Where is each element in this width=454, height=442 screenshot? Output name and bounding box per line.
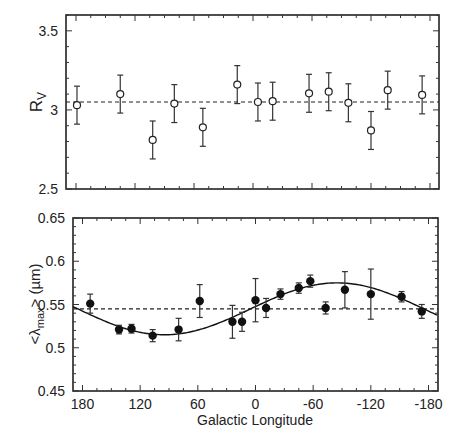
y-tick-label: 0.45 — [38, 383, 65, 399]
x-tick-label: 180 — [71, 396, 95, 412]
y-tick-label: 0.5 — [46, 340, 66, 356]
open-marker — [149, 136, 156, 143]
data-point — [228, 305, 236, 338]
data-point — [345, 84, 352, 122]
y-tick-label: 0.65 — [38, 210, 65, 226]
filled-marker — [148, 331, 156, 339]
data-point — [269, 82, 276, 120]
x-tick-label: -180 — [414, 396, 442, 412]
open-marker — [345, 99, 352, 106]
data-point — [306, 74, 313, 112]
data-point — [262, 298, 270, 317]
y-tick-label: 2.5 — [39, 181, 59, 197]
data-point — [238, 312, 246, 331]
open-marker — [171, 100, 178, 107]
x-tick-label: 0 — [252, 396, 260, 412]
data-point — [174, 318, 182, 340]
rv-panel: 2.533.5 — [39, 15, 439, 197]
filled-marker — [397, 293, 405, 301]
data-point — [276, 289, 284, 299]
open-marker — [234, 81, 241, 88]
data-point — [115, 325, 123, 334]
y-tick-label: 3.5 — [39, 23, 59, 39]
x-axis-label: Galactic Longitude — [197, 412, 313, 428]
data-point — [254, 83, 261, 121]
data-point — [321, 302, 329, 314]
open-marker — [368, 127, 375, 134]
data-point — [171, 85, 178, 123]
data-point — [148, 330, 156, 342]
x-tick-label: -120 — [357, 396, 385, 412]
data-point — [117, 75, 124, 113]
filled-marker — [306, 277, 314, 285]
filled-marker — [321, 304, 329, 312]
data-point — [73, 86, 80, 124]
open-marker — [384, 87, 391, 94]
open-marker — [199, 124, 206, 131]
chart-figure: 2.533.5 0.450.50.550.60.65180120600-60-1… — [0, 0, 454, 442]
filled-marker — [341, 286, 349, 294]
filled-marker — [276, 290, 284, 298]
open-marker — [117, 91, 124, 98]
filled-marker — [86, 299, 94, 307]
top-ylabel: RV — [27, 92, 49, 112]
data-point — [149, 121, 156, 159]
data-point — [295, 283, 303, 293]
lambda-max-panel: 0.450.50.550.60.65180120600-60-120-180 — [38, 210, 443, 412]
open-marker — [254, 99, 261, 106]
filled-marker — [115, 325, 123, 333]
filled-marker — [238, 318, 246, 326]
x-tick-label: 60 — [190, 396, 206, 412]
filled-marker — [127, 325, 135, 333]
data-point — [367, 269, 375, 319]
filled-marker — [174, 325, 182, 333]
data-point — [199, 108, 206, 146]
data-point — [234, 66, 241, 104]
data-point — [86, 294, 94, 313]
data-point — [196, 285, 204, 318]
filled-marker — [262, 304, 270, 312]
open-marker — [73, 102, 80, 109]
x-tick-label: 120 — [128, 396, 152, 412]
open-marker — [325, 88, 332, 95]
filled-marker — [295, 284, 303, 292]
data-point — [419, 76, 426, 114]
data-point — [251, 279, 259, 322]
filled-marker — [367, 290, 375, 298]
filled-marker — [418, 307, 426, 315]
filled-marker — [251, 296, 259, 304]
open-marker — [306, 90, 313, 97]
filled-marker — [228, 318, 236, 326]
open-marker — [269, 98, 276, 105]
data-point — [384, 71, 391, 109]
x-tick-label: -60 — [303, 396, 323, 412]
y-tick-label: 3 — [50, 102, 58, 118]
data-point — [341, 272, 349, 308]
data-point — [325, 73, 332, 111]
data-point — [368, 111, 375, 149]
y-tick-label: 0.6 — [46, 253, 66, 269]
filled-marker — [196, 297, 204, 305]
open-marker — [419, 91, 426, 98]
